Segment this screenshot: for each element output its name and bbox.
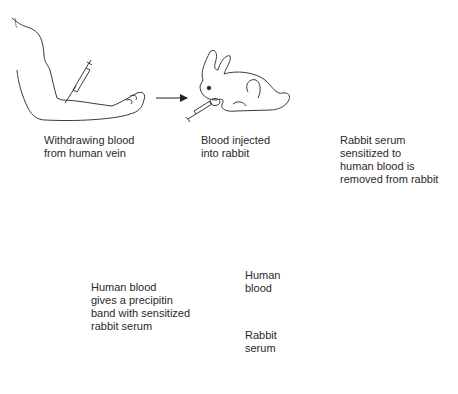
step-label-inject: Blood injected into rabbit [201, 134, 270, 160]
diagram-artwork [0, 0, 458, 394]
step-label-withdraw: Withdrawing blood from human vein [44, 134, 135, 160]
syringe-icon [65, 60, 92, 103]
band-label: Human blood gives a precipitin band with… [91, 281, 190, 333]
rabbit-icon [200, 50, 290, 111]
layer-label-human-blood: Human blood [245, 269, 280, 295]
human-arm-icon [12, 18, 145, 121]
layer-label-rabbit-serum: Rabbit serum [245, 329, 277, 355]
syringe-icon [186, 99, 220, 123]
step-label-remove: Rabbit serum sensitized to human blood i… [340, 134, 438, 186]
